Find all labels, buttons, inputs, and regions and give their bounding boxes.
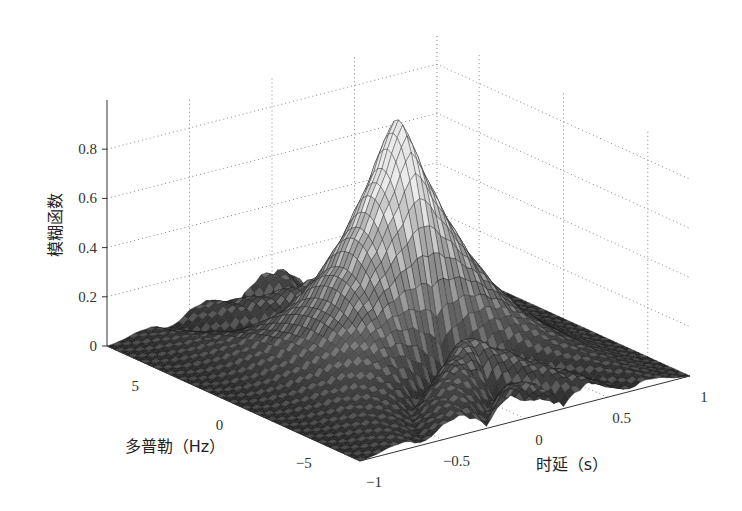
y-tick-label: 5 xyxy=(131,378,139,394)
x-tick-label: 1 xyxy=(700,389,708,405)
x-axis-label: 时延（s） xyxy=(536,455,608,474)
z-tick-label: 0.6 xyxy=(78,190,97,206)
y-axis-label: 多普勒（Hz） xyxy=(125,437,225,456)
z-tick-label: 0 xyxy=(90,338,98,354)
y-tick-label: −5 xyxy=(296,455,312,471)
x-tick-label: −1 xyxy=(366,474,382,490)
x-tick-label: 0 xyxy=(535,432,543,448)
z-axis-label: 模糊函数 xyxy=(46,193,65,257)
y-tick-label: 0 xyxy=(216,417,224,433)
x-tick-label: 0.5 xyxy=(612,410,631,426)
ambiguity-surface-chart: 00.20.40.60.850−5−1−0.500.51 模糊函数 多普勒（Hz… xyxy=(0,0,742,511)
surface-layer xyxy=(107,120,690,461)
z-tick-label: 0.4 xyxy=(78,240,97,256)
z-tick-label: 0.2 xyxy=(78,289,97,305)
x-tick-label: −0.5 xyxy=(443,453,470,469)
z-tick-label: 0.8 xyxy=(78,141,97,157)
